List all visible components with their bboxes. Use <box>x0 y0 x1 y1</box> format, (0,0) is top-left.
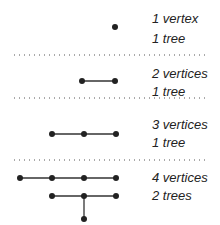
row-1-label-vertices: 1 vertex <box>152 11 198 26</box>
edges <box>20 81 116 219</box>
row-2-label-vertices: 2 vertices <box>152 66 208 81</box>
row-3-label-trees: 1 tree <box>152 135 185 150</box>
row-2-label-trees: 1 tree <box>152 84 185 99</box>
row-1-label-trees: 1 tree <box>152 31 185 46</box>
row-4-label-trees: 2 trees <box>152 188 192 203</box>
row-3-label-vertices: 3 vertices <box>152 117 208 132</box>
row-4-label-vertices: 4 vertices <box>152 170 208 185</box>
vertices <box>17 24 119 222</box>
